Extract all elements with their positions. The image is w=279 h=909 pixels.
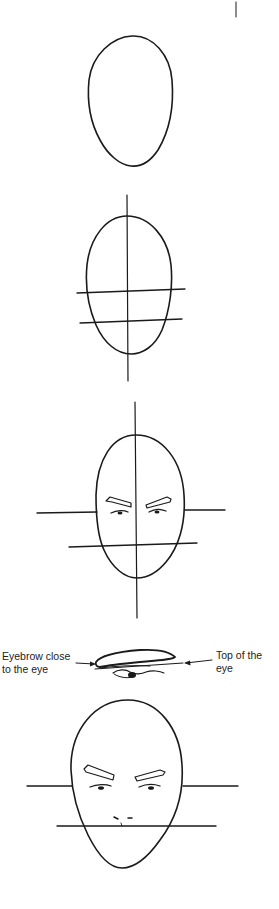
eye-guide-left <box>37 512 97 513</box>
right-eyebrow <box>135 770 165 781</box>
eye-guide-line <box>77 289 185 293</box>
left-pupil <box>98 786 104 790</box>
left-eyebrow <box>84 765 114 780</box>
figure-step-3 <box>37 402 225 618</box>
left-eyebrow <box>106 497 131 507</box>
annotation-right-line2: eye <box>216 662 262 675</box>
head-oval-3 <box>96 435 184 578</box>
detail-pupil <box>128 672 136 678</box>
nose-guide-line <box>80 319 182 323</box>
drawing-canvas <box>0 0 279 909</box>
nose-left-nostril <box>114 817 118 819</box>
annotation-right-line1: Top of the <box>216 649 262 662</box>
annotation-left-line2: to the eye <box>2 663 70 676</box>
figure-step-1 <box>88 36 172 166</box>
right-arrow-head <box>184 661 191 666</box>
head-oval-1 <box>88 36 172 166</box>
annotation-left-line1: Eyebrow close <box>2 650 70 663</box>
head-oval-4 <box>71 700 182 868</box>
detail-eye-upper <box>113 670 164 674</box>
right-eyebrow <box>146 497 171 508</box>
figure-step-4 <box>27 700 238 868</box>
figure-eye-detail <box>76 650 212 678</box>
annotation-top-of-eye: Top of the eye <box>216 649 262 675</box>
figure-step-2 <box>77 195 185 381</box>
annotation-eyebrow-close: Eyebrow close to the eye <box>2 650 70 676</box>
right-pupil <box>148 786 154 790</box>
nose-guide-line <box>69 543 197 547</box>
head-oval-2 <box>86 216 171 354</box>
left-pupil <box>118 511 123 514</box>
right-pupil <box>155 510 160 513</box>
